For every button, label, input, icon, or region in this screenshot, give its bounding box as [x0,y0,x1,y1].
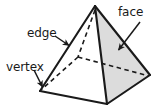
face-arrow [119,22,141,50]
label-vertex: vertex [6,61,44,73]
label-face: face [118,6,143,18]
label-edge: edge [27,27,57,39]
edge-arrow [55,36,69,46]
pyramid-diagram: edge vertex face [0,0,160,112]
